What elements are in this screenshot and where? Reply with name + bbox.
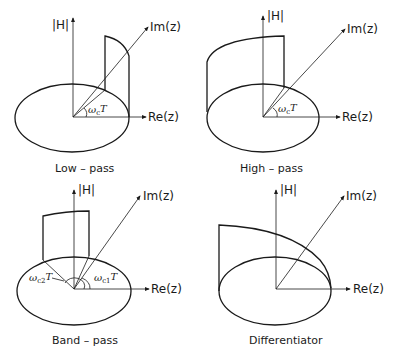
real-axis-label: Re(z) bbox=[148, 110, 179, 124]
imag-axis-label: Im(z) bbox=[143, 189, 174, 203]
real-axis-label: Re(z) bbox=[342, 110, 373, 124]
filter-magnitude-diagrams: |H| Re(z) Im(z) ωcT Low – pass |H| Re(z)… bbox=[0, 0, 397, 358]
magnitude-axis-label: |H| bbox=[267, 9, 284, 23]
imag-axis-label: Im(z) bbox=[150, 20, 181, 34]
cutoff-angle-label: ωcT bbox=[88, 103, 108, 117]
passband-wall bbox=[43, 211, 89, 260]
panel-differentiator: |H| Re(z) Im(z) Differentiator bbox=[219, 183, 384, 347]
caption-high-pass: High – pass bbox=[240, 162, 303, 175]
angle-arc bbox=[273, 108, 277, 117]
panel-low-pass: |H| Re(z) Im(z) ωcT Low – pass bbox=[15, 18, 181, 175]
caption-differentiator: Differentiator bbox=[249, 334, 323, 347]
angle-arc-1 bbox=[82, 278, 90, 289]
angle-arc bbox=[84, 108, 87, 117]
passband-wall bbox=[207, 36, 284, 112]
panel-high-pass: |H| Re(z) Im(z) ωcT High – pass bbox=[207, 9, 378, 175]
real-axis-label: Re(z) bbox=[151, 282, 182, 296]
magnitude-axis-label: |H| bbox=[280, 183, 297, 197]
panel-band-pass: |H| Re(z) Im(z) ωc2T ωc1T Band – pass bbox=[17, 183, 182, 347]
imag-axis bbox=[276, 196, 344, 289]
magnitude-surface bbox=[219, 225, 331, 291]
imag-axis bbox=[73, 27, 148, 117]
cutoff-angle-label-2: ωc2T bbox=[29, 271, 54, 285]
imag-axis bbox=[74, 196, 140, 289]
imag-axis-label: Im(z) bbox=[346, 189, 377, 203]
magnitude-axis-label: |H| bbox=[52, 18, 69, 32]
cutoff-angle-label: ωcT bbox=[278, 102, 298, 116]
cutoff-line-1 bbox=[74, 256, 89, 289]
imag-axis-label: Im(z) bbox=[347, 22, 378, 36]
magnitude-axis-label: |H| bbox=[78, 183, 95, 197]
unit-circle bbox=[219, 257, 331, 325]
unit-circle bbox=[15, 84, 129, 152]
caption-low-pass: Low – pass bbox=[55, 162, 115, 175]
real-axis-label: Re(z) bbox=[353, 282, 384, 296]
cutoff-angle-label-1: ωc1T bbox=[94, 271, 119, 285]
caption-band-pass: Band – pass bbox=[52, 334, 118, 347]
imag-axis bbox=[263, 29, 345, 117]
